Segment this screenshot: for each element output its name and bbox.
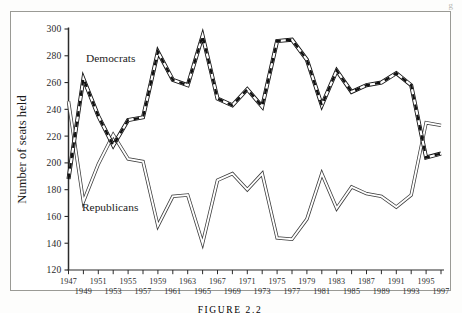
x-tick-label: 1985 xyxy=(343,287,360,296)
x-tick-label: 1973 xyxy=(254,287,271,296)
x-tick-label: 1953 xyxy=(105,287,122,296)
x-tick-label: 1961 xyxy=(164,287,181,296)
democrats-series-label: Democrats xyxy=(86,52,136,64)
y-axis-title: Number of seats held xyxy=(15,95,29,204)
x-tick-label: 1959 xyxy=(149,277,166,286)
x-tick-label: 1987 xyxy=(358,277,375,286)
republicans-series-label: Republicans xyxy=(82,201,139,213)
series-annotations: DemocratsRepublicans xyxy=(82,52,139,213)
seats-held-line-chart: 120140160180200220240260280300Number of … xyxy=(0,0,462,313)
y-tick-label: 260 xyxy=(47,77,62,88)
x-tick-label: 1969 xyxy=(224,287,241,296)
x-tick-label: 1947 xyxy=(60,277,77,286)
y-tick-label: 200 xyxy=(47,157,62,168)
x-tick-label: 1951 xyxy=(90,277,107,286)
y-tick-label: 120 xyxy=(47,264,62,275)
figure-caption: FIGURE 2.2 xyxy=(150,299,310,313)
x-tick-label: 1989 xyxy=(373,287,390,296)
x-tick-label: 1971 xyxy=(239,277,256,286)
x-tick-label: 1995 xyxy=(418,277,435,286)
y-tick-label: 180 xyxy=(47,184,62,195)
x-tick-label: 1965 xyxy=(194,287,211,296)
y-tick-label: 280 xyxy=(47,50,62,61)
x-tick-label: 1975 xyxy=(269,277,286,286)
x-tick-label: 1997 xyxy=(432,287,449,296)
figure-root: g 120140160180200220240260280300Number o… xyxy=(0,0,462,313)
x-tick-label: 1981 xyxy=(313,287,330,296)
x-axis: 1947194919511953195519571959196119631965… xyxy=(60,270,450,296)
x-tick-label: 1949 xyxy=(75,287,92,296)
y-tick-label: 220 xyxy=(47,131,62,142)
y-tick-label: 160 xyxy=(47,211,62,222)
x-tick-label: 1991 xyxy=(388,277,405,286)
x-tick-label: 1963 xyxy=(179,277,196,286)
x-tick-label: 1957 xyxy=(134,287,151,296)
x-tick-label: 1967 xyxy=(209,277,226,286)
x-tick-label: 1977 xyxy=(283,287,300,296)
y-tick-label: 300 xyxy=(47,23,62,34)
x-tick-label: 1983 xyxy=(328,277,345,286)
y-tick-label: 140 xyxy=(47,238,62,249)
y-tick-label: 240 xyxy=(47,104,62,115)
x-tick-label: 1955 xyxy=(120,277,137,286)
x-tick-label: 1993 xyxy=(403,287,420,296)
y-axis: 120140160180200220240260280300Number of … xyxy=(15,23,69,275)
x-tick-label: 1979 xyxy=(298,277,315,286)
